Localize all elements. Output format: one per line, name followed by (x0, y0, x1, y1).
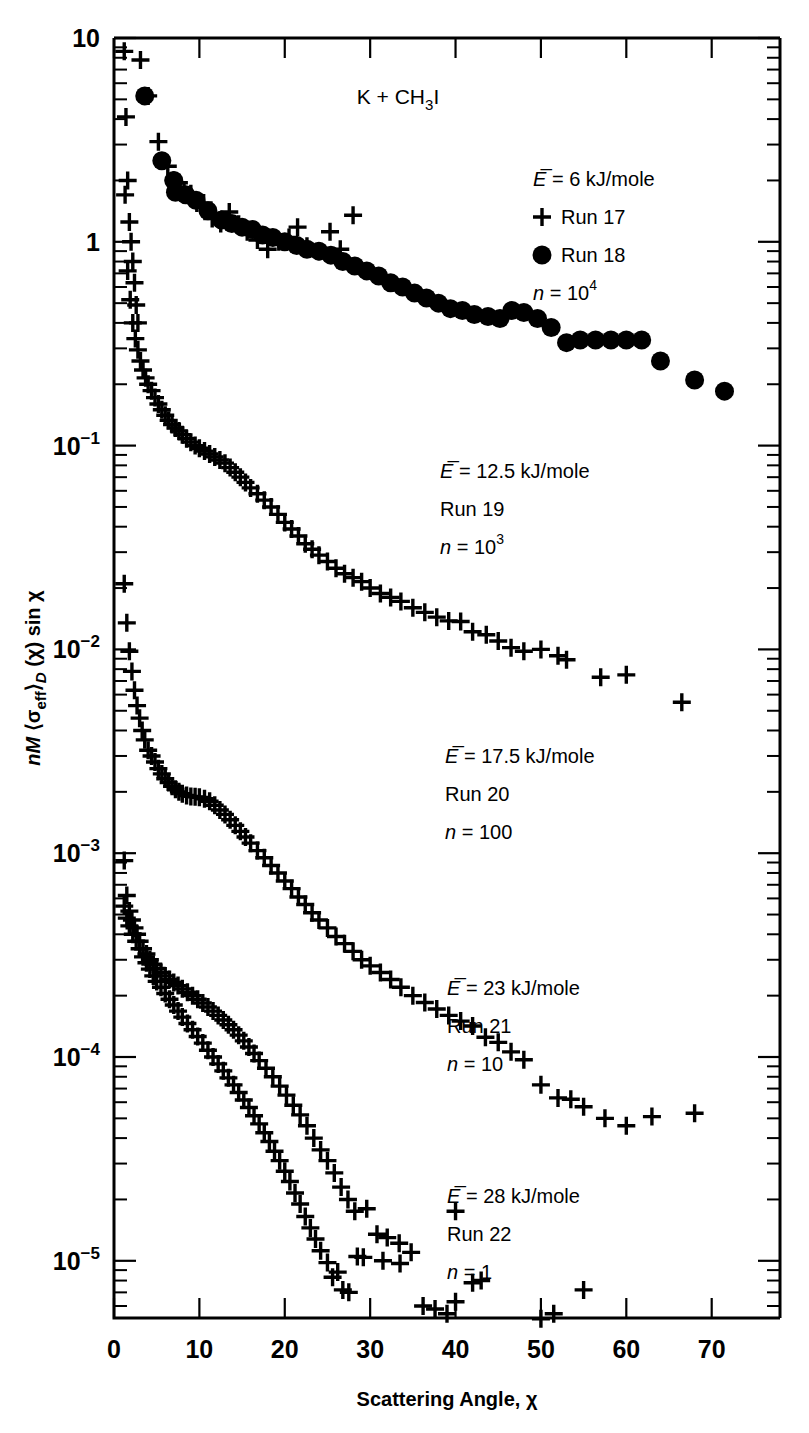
data-point (115, 575, 133, 593)
scatter-plot: 10110−110−210−310−410−5010203040506070Sc… (0, 0, 809, 1433)
y-tick-label: 10−5 (53, 1244, 100, 1275)
legend-row-text: Run 19 (440, 498, 505, 520)
y-tick-label: 10−2 (53, 632, 100, 663)
legend-row-text: Run 22 (447, 1223, 512, 1245)
x-tick-label: 70 (698, 1335, 726, 1363)
data-point (344, 206, 362, 224)
data-point (136, 731, 154, 749)
legend-dot-icon (533, 246, 552, 265)
y-tick-label: 10−3 (53, 836, 100, 867)
data-point (447, 1293, 465, 1311)
legend-block3: E̅ = 17.5 kJ/moleRun 20n = 100 (445, 745, 595, 843)
data-point (632, 330, 651, 349)
data-point (125, 681, 143, 699)
data-point (116, 186, 134, 204)
x-tick-label: 10 (185, 1335, 213, 1363)
data-point (149, 133, 167, 151)
legend-row-text: E̅ = 6 kJ/mole (533, 168, 655, 190)
legend-row-text: n = 100 (445, 821, 512, 843)
legend-row-text: E̅ = 28 kJ/mole (447, 1185, 580, 1207)
data-point (617, 666, 635, 684)
data-point (452, 613, 470, 631)
data-point (715, 382, 734, 401)
x-tick-label: 0 (107, 1335, 121, 1363)
legend-row-text: E̅ = 17.5 kJ/mole (445, 745, 595, 767)
data-point (596, 1109, 614, 1127)
data-point (118, 887, 136, 905)
data-point (321, 223, 339, 241)
data-point (673, 693, 691, 711)
data-point (374, 1252, 392, 1270)
y-tick-label: 10 (72, 24, 100, 52)
series-run-22 (115, 897, 464, 1301)
data-point (120, 642, 138, 660)
axis-frame-left-bottom (114, 38, 780, 1318)
legend-block4: E̅ = 23 kJ/moleRun 21n = 10 (447, 977, 580, 1075)
data-point (651, 352, 670, 371)
legend-row-text: Run 18 (561, 244, 626, 266)
legend-row-text: E̅ = 12.5 kJ/mole (440, 460, 590, 482)
legend-row-text: n = 10 (447, 1053, 503, 1075)
legend-row-text: n = 104 (533, 277, 597, 304)
x-tick-label: 60 (612, 1335, 640, 1363)
data-point (464, 623, 482, 641)
x-tick-label: 30 (356, 1335, 384, 1363)
x-tick-label: 20 (271, 1335, 299, 1363)
data-point (131, 51, 149, 69)
data-point (289, 218, 307, 236)
data-point (131, 352, 149, 370)
data-point (128, 697, 146, 715)
data-point (558, 651, 576, 669)
legend-block1: E̅ = 6 kJ/moleRun 17Run 18n = 104 (533, 168, 655, 304)
data-point (117, 108, 135, 126)
data-point (391, 1254, 409, 1272)
y-tick-label: 1 (86, 228, 100, 256)
data-point (686, 1104, 704, 1122)
data-point (135, 86, 154, 105)
data-point (123, 662, 141, 680)
data-point (382, 588, 400, 606)
data-point (532, 1076, 550, 1094)
data-point (122, 233, 140, 251)
series-run-17 (115, 42, 362, 332)
y-tick-label: 10−4 (53, 1040, 101, 1071)
series-run-18 (135, 86, 734, 400)
data-point (118, 614, 136, 632)
legend-row-text: Run 17 (561, 206, 626, 228)
data-point (126, 330, 144, 348)
legend-block2: E̅ = 12.5 kJ/moleRun 19n = 103 (440, 460, 590, 558)
y-axis-title: nM ⟨σeff⟩D (χ) sin χ (22, 590, 49, 766)
legend-row-text: n = 1 (447, 1261, 492, 1283)
data-point (368, 1225, 386, 1243)
data-point (131, 709, 149, 727)
x-axis-title: Scattering Angle, χ (357, 1388, 538, 1410)
data-point (515, 642, 533, 660)
data-point (152, 151, 171, 170)
data-point (133, 722, 151, 740)
legend-row-text: n = 103 (440, 531, 504, 558)
data-point (575, 1281, 593, 1299)
data-point (617, 1117, 635, 1135)
data-point (542, 318, 561, 337)
figure-container: 10110−110−210−310−410−5010203040506070Sc… (0, 0, 809, 1433)
data-point (129, 341, 147, 359)
data-point (358, 1200, 376, 1218)
data-point (592, 668, 610, 686)
data-point (119, 171, 137, 189)
data-point (344, 569, 362, 587)
y-tick-label: 10−1 (53, 429, 100, 460)
legend-plus-icon (533, 208, 551, 226)
data-point (549, 647, 567, 665)
data-point (643, 1108, 661, 1126)
data-point (685, 370, 704, 389)
x-tick-label: 50 (527, 1335, 555, 1363)
data-point (414, 1297, 432, 1315)
legend-block5: E̅ = 28 kJ/moleRun 22n = 1 (447, 1185, 580, 1283)
data-point (402, 1243, 420, 1261)
legend-row-text: Run 20 (445, 783, 510, 805)
legend-row-text: Run 21 (447, 1015, 512, 1037)
x-tick-label: 40 (442, 1335, 470, 1363)
data-point (120, 213, 138, 231)
data-point (532, 640, 550, 658)
legend-row-text: E̅ = 23 kJ/mole (447, 977, 580, 999)
